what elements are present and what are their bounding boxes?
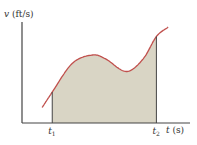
x-axis-label: t (s)	[166, 125, 184, 135]
velocity-time-graph: v (ft/s) t (s) t1 t2	[0, 0, 197, 145]
tick-label-t1: t1	[48, 126, 55, 137]
y-axis-label: v (ft/s)	[4, 9, 34, 19]
tick-label-t2: t2	[152, 126, 160, 137]
shaded-area-under-curve	[52, 37, 156, 124]
